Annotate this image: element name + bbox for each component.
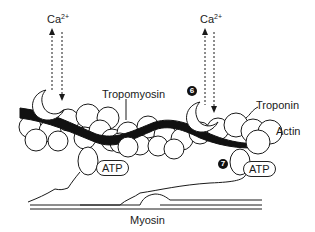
muscle-contraction-diagram: Ca2+ Ca2+ Tropomyosin Troponin Actin Myo… — [0, 0, 315, 232]
calcium-label-base: Ca — [47, 13, 61, 25]
calcium-label-base: Ca — [200, 13, 214, 25]
calcium-label-right: Ca2+ — [200, 13, 222, 25]
myosin-label: Myosin — [130, 215, 165, 226]
calcium-label-charge: 2+ — [61, 13, 69, 20]
actin-label: Actin — [276, 126, 300, 137]
myosin-filament — [30, 194, 262, 209]
diagram-graphics — [0, 0, 315, 232]
atp-label-right: ATP — [243, 161, 276, 177]
troponin-label: Troponin — [256, 100, 299, 111]
calcium-arrows-right — [205, 32, 214, 108]
atp-label-left: ATP — [96, 160, 129, 176]
calcium-arrows-left — [52, 32, 62, 96]
step-6-badge: 6 — [187, 86, 197, 96]
myosin-head-left — [78, 147, 98, 175]
step-7-badge: 7 — [218, 159, 228, 169]
tropomyosin-label: Tropomyosin — [102, 89, 165, 100]
calcium-label-left: Ca2+ — [47, 13, 69, 25]
calcium-label-charge: 2+ — [214, 13, 222, 20]
